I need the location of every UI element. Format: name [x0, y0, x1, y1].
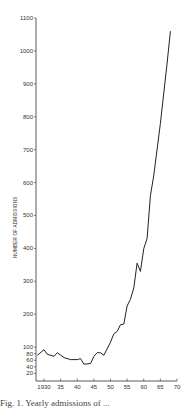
- x-axis: 19303540455055606570: [36, 379, 181, 391]
- y-tick-label: 100: [23, 344, 34, 350]
- y-tick-label: 300: [23, 278, 34, 284]
- y-tick-label: 1000: [20, 48, 34, 54]
- x-tick-label: 35: [57, 384, 64, 390]
- y-tick-label: 20: [26, 370, 33, 376]
- x-tick-label: 1930: [37, 384, 51, 390]
- y-tick-label: 700: [23, 147, 34, 153]
- y-tick-label: 60: [26, 357, 33, 363]
- y-tick-label: 200: [23, 311, 34, 317]
- admissions-line: [37, 31, 170, 364]
- x-tick-label: 60: [140, 384, 147, 390]
- y-axis: 2040608010020030040050060070080090010001…: [20, 15, 36, 381]
- x-tick-label: 45: [91, 384, 98, 390]
- y-tick-label: 500: [23, 212, 34, 218]
- x-tick-label: 40: [74, 384, 81, 390]
- y-tick-label: 600: [23, 180, 34, 186]
- x-tick-label: 50: [107, 384, 114, 390]
- y-tick-label: 900: [23, 81, 34, 87]
- x-tick-label: 65: [157, 384, 164, 390]
- y-tick-label: 800: [23, 114, 34, 120]
- y-axis-title: NUMBER OF ADMISSIONS: [13, 197, 18, 258]
- y-tick-label: 80: [26, 351, 33, 357]
- x-tick-label: 55: [124, 384, 131, 390]
- figure-caption: Fig. 1. Yearly admissions of ...: [0, 398, 189, 408]
- y-tick-label: 1100: [20, 15, 34, 21]
- y-tick-label: 40: [26, 364, 33, 370]
- y-tick-label: 400: [23, 245, 34, 251]
- x-tick-label: 70: [174, 384, 181, 390]
